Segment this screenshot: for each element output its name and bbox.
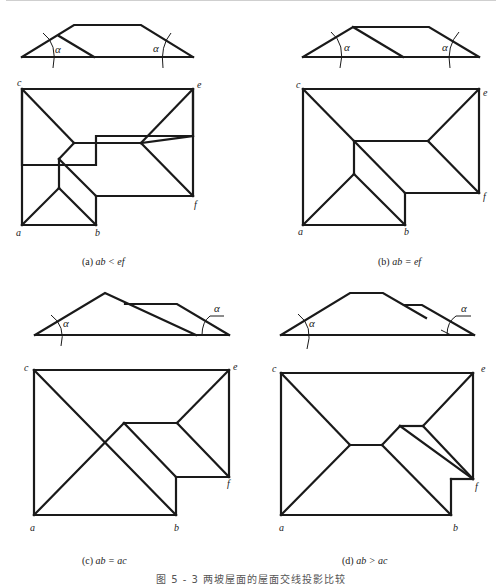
- vertex-label-c: c: [24, 362, 29, 373]
- vertex-label-f: f: [475, 481, 479, 492]
- hip-line: [281, 373, 350, 445]
- hip-line: [177, 423, 229, 477]
- hip-line: [428, 141, 479, 193]
- panel-a-condition: ab < ef: [96, 256, 125, 267]
- alpha-label: α: [214, 302, 220, 314]
- alpha-label: α: [461, 302, 467, 314]
- roof-outline: [22, 25, 193, 57]
- vertex-label-f: f: [227, 478, 231, 489]
- panel-c: α α c e f a b: [24, 293, 238, 533]
- vertex-label-f: f: [483, 191, 487, 202]
- vertex-label-b: b: [174, 522, 179, 533]
- panel-b-caption: (b) ab = ef: [378, 256, 421, 267]
- elevation-a: α α: [22, 25, 193, 68]
- panel-a-label: (a): [82, 256, 93, 267]
- panel-a: α α c e f a b: [16, 25, 202, 238]
- vertex-label-a: a: [30, 522, 35, 533]
- hip-line: [423, 426, 473, 479]
- alpha-label: α: [309, 317, 315, 329]
- hip-line: [22, 89, 74, 143]
- alpha-label: α: [55, 43, 61, 55]
- vertex-label-e: e: [233, 361, 238, 372]
- hip-line: [141, 143, 193, 196]
- panel-b-label: (b): [378, 256, 390, 267]
- vertex-label-a: a: [16, 227, 21, 238]
- hip-line: [382, 426, 400, 445]
- hip-line: [177, 370, 229, 423]
- hip-line: [281, 445, 350, 515]
- valley-line: [59, 143, 74, 159]
- elevation-c: α α: [35, 293, 229, 346]
- alpha-label: α: [442, 41, 448, 53]
- panel-b-condition: ab = ef: [392, 256, 421, 267]
- angle-arc-left: [331, 32, 342, 68]
- hip-line: [59, 188, 96, 225]
- vertex-label-e: e: [481, 363, 486, 374]
- plan-c: c e f a b: [24, 361, 238, 533]
- panel-d: α α c e f a b: [272, 293, 486, 533]
- panel-b: α α c e f a b: [296, 27, 488, 237]
- roof-outline: [281, 293, 426, 335]
- vertex-label-b: b: [453, 522, 458, 533]
- panel-d-label: (d): [342, 555, 354, 566]
- ridge-slope-line: [353, 27, 403, 57]
- hip-line: [423, 373, 473, 426]
- plan-b: c e f a b: [296, 79, 488, 237]
- vertex-label-c: c: [17, 77, 22, 88]
- hip-line: [34, 423, 124, 515]
- plan-d: c e f a b: [272, 363, 486, 533]
- vertex-label-f: f: [194, 199, 198, 210]
- elevation-d: α α: [281, 293, 474, 349]
- panel-c-label: (c): [82, 555, 93, 566]
- hip-line: [354, 174, 405, 225]
- alpha-label: α: [63, 317, 69, 329]
- panel-d-caption: (d) ab > ac: [342, 555, 387, 566]
- alpha-label: α: [344, 41, 350, 53]
- ridge-slope-line: [59, 36, 94, 57]
- plan-a: c e f a b: [16, 77, 202, 238]
- hip-line: [22, 188, 59, 225]
- figure-caption: 图 5 - 3 两坡屋面的屋面交线投影比较: [0, 571, 502, 586]
- valley-line: [400, 426, 473, 479]
- vertex-label-b: b: [95, 227, 100, 238]
- vertex-label-b: b: [404, 226, 409, 237]
- elevation-b: α α: [303, 27, 479, 68]
- panel-a-caption: (a) ab < ef: [82, 256, 125, 267]
- hip-line: [303, 174, 354, 225]
- alpha-label: α: [153, 42, 159, 54]
- angle-arc-right: [449, 32, 459, 68]
- panel-c-caption: (c) ab = ac: [82, 555, 127, 566]
- panel-d-condition: ab > ac: [356, 555, 387, 566]
- vertex-label-e: e: [197, 79, 202, 90]
- vertex-label-a: a: [298, 226, 303, 237]
- vertex-label-c: c: [272, 363, 277, 374]
- panel-c-condition: ab = ac: [96, 555, 127, 566]
- vertex-label-a: a: [279, 522, 284, 533]
- building-outline: [22, 89, 193, 165]
- roof-outline: [35, 293, 196, 335]
- vertex-label-e: e: [483, 87, 488, 98]
- hip-line: [428, 89, 479, 141]
- vertex-label-c: c: [296, 79, 301, 90]
